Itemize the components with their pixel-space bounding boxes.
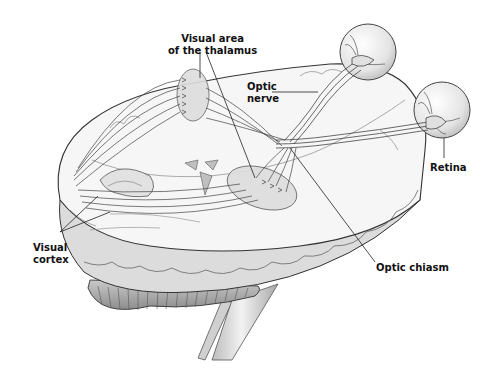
label-thalamus-line1: Visual area (168, 33, 257, 45)
label-retina-text: Retina (430, 162, 467, 174)
label-visual-cortex-line2: cortex (33, 254, 69, 266)
eye-lower (414, 82, 470, 138)
label-optic-nerve: Optic nerve (247, 81, 279, 105)
label-optic-chiasm-text: Optic chiasm (376, 262, 449, 274)
label-optic-nerve-line1: Optic (247, 81, 279, 93)
label-thalamus-line2: of the thalamus (168, 45, 257, 57)
label-visual-cortex: Visual cortex (33, 242, 69, 266)
label-visual-cortex-line1: Visual (33, 242, 69, 254)
eye-upper (340, 24, 396, 80)
label-optic-chiasm: Optic chiasm (376, 262, 449, 274)
thalamus-upper-nucleus (177, 69, 209, 121)
label-thalamus: Visual area of the thalamus (168, 33, 257, 57)
label-retina: Retina (430, 162, 467, 174)
label-optic-nerve-line2: nerve (247, 93, 279, 105)
